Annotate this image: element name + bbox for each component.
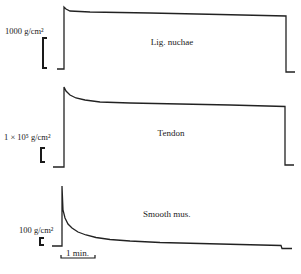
scale-bar-lig-nuchae [43, 38, 47, 68]
scale-label-smooth-muscle: 100 g/cm² [19, 225, 54, 235]
scale-bar-smooth-muscle [40, 238, 44, 245]
time-scale-bar: 1 min. [61, 248, 95, 258]
scale-label-tendon: 1 × 10⁵ g/cm² [4, 132, 51, 142]
scale-label-lig-nuchae: 1000 g/cm² [5, 26, 44, 36]
scale-bar-tendon [41, 148, 45, 162]
label-tendon: Tendon [158, 128, 185, 138]
label-lig-nuchae: Lig. nuchae [151, 37, 193, 47]
panel-lig-nuchae: 1000 g/cm² Lig. nuchae [5, 7, 295, 72]
panel-tendon: 1 × 10⁵ g/cm² Tendon [4, 87, 294, 167]
time-scale-label: 1 min. [66, 248, 89, 258]
trace-tendon [53, 87, 294, 167]
label-smooth-muscle: Smooth mus. [143, 209, 191, 219]
panel-smooth-muscle: 100 g/cm² Smooth mus. [19, 186, 292, 249]
stress-relaxation-figure: 1000 g/cm² Lig. nuchae 1 × 10⁵ g/cm² Ten… [0, 0, 301, 274]
